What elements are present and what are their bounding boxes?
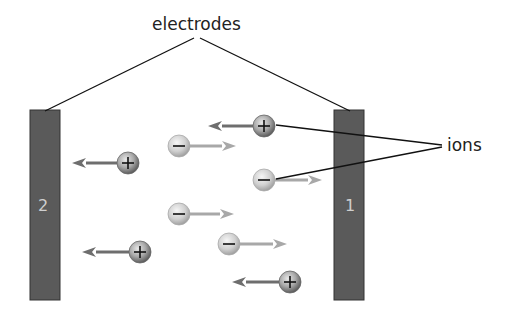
electrode-1-label: 1 bbox=[345, 196, 355, 215]
arrow-head-icon bbox=[232, 277, 246, 287]
arrow-head-icon bbox=[273, 239, 287, 249]
arrow-head-icon bbox=[222, 141, 236, 151]
electrodes-leader-right bbox=[200, 38, 350, 111]
arrow-head-icon bbox=[308, 175, 322, 185]
arrow-head-icon bbox=[220, 209, 234, 219]
ions-layer bbox=[72, 115, 322, 293]
ions-label: ions bbox=[447, 135, 482, 155]
negative-ion bbox=[168, 135, 236, 157]
electrodes-leader-left bbox=[45, 38, 194, 111]
positive-ion bbox=[82, 241, 151, 263]
arrow-head-icon bbox=[208, 121, 222, 131]
arrow-head-icon bbox=[72, 158, 86, 168]
arrow-head-icon bbox=[82, 247, 96, 257]
electrode-2-label: 2 bbox=[38, 196, 48, 215]
positive-ion bbox=[72, 152, 139, 174]
negative-ion bbox=[168, 203, 234, 225]
positive-ion bbox=[208, 115, 275, 137]
positive-ion bbox=[232, 271, 301, 293]
electrodes-label: electrodes bbox=[152, 14, 241, 34]
electrolysis-diagram bbox=[0, 0, 509, 323]
negative-ion bbox=[218, 233, 287, 255]
